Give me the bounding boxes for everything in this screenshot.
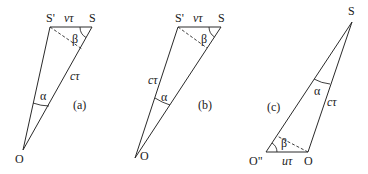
angle-beta-arc bbox=[209, 27, 215, 37]
point-s-label: S bbox=[348, 4, 355, 18]
side-s-o bbox=[23, 27, 92, 150]
point-o-double-prime-label: O" bbox=[249, 154, 263, 168]
point-s-label: S bbox=[218, 11, 225, 25]
point-o-label: O bbox=[140, 149, 149, 163]
side-ct-label: cτ bbox=[327, 95, 337, 109]
point-s-prime-label: S' bbox=[46, 11, 55, 25]
angle-beta-label: β bbox=[281, 136, 287, 150]
panel-b: S' vτ S β cτ α (b) O bbox=[135, 11, 225, 163]
point-o-label: O bbox=[15, 152, 24, 166]
point-s-prime-label: S' bbox=[175, 11, 184, 25]
panel-a-caption: (a) bbox=[73, 98, 86, 112]
aberration-triangles-figure: S' vτ S β cτ α (a) O S' vτ S β cτ α (b) … bbox=[0, 0, 368, 174]
angle-alpha-arc bbox=[33, 103, 49, 106]
side-ut-label: uτ bbox=[282, 154, 293, 168]
side-s-prime-o bbox=[135, 27, 178, 158]
angle-beta-label: β bbox=[201, 32, 207, 46]
panel-c: S α cτ (c) β O" uτ O bbox=[249, 4, 355, 168]
point-o-label: O bbox=[304, 154, 313, 168]
angle-beta-arc bbox=[80, 27, 86, 38]
angle-beta-arc bbox=[272, 143, 277, 152]
panel-b-caption: (b) bbox=[198, 98, 212, 112]
side-ct-label: cτ bbox=[148, 73, 158, 87]
panel-a: S' vτ S β cτ α (a) O bbox=[15, 11, 96, 166]
side-vt-label: vτ bbox=[193, 11, 203, 25]
side-vt-label: vτ bbox=[64, 11, 74, 25]
angle-beta-label: β bbox=[72, 32, 78, 46]
side-ct-label: cτ bbox=[70, 69, 80, 83]
angle-alpha-label: α bbox=[161, 90, 168, 104]
point-s-label: S bbox=[89, 11, 96, 25]
side-s-o bbox=[135, 27, 221, 158]
panel-c-caption: (c) bbox=[267, 100, 280, 114]
angle-alpha-label: α bbox=[40, 89, 47, 103]
side-s-o-double-prime bbox=[266, 22, 352, 152]
angle-alpha-label: α bbox=[314, 84, 321, 98]
